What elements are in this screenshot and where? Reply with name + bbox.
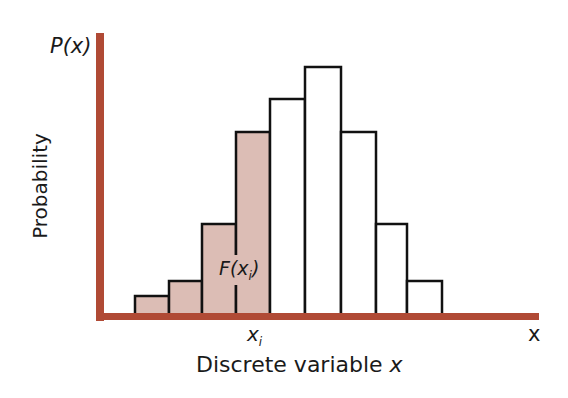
histogram-bar-shaded (169, 281, 202, 316)
F-close: ) (252, 257, 259, 279)
x-axis-end-label: x (528, 322, 540, 346)
histogram-bar (407, 281, 442, 316)
x-axis-variable: x (390, 352, 403, 377)
F-var: x (237, 257, 248, 279)
cumulative-label: F(xi) (219, 257, 259, 283)
histogram-bar (270, 99, 305, 316)
y-axis-label: Probability (28, 133, 52, 239)
F-open: F( (219, 257, 237, 279)
x-axis-label: Discrete variable x (196, 352, 403, 377)
y-axis-line (96, 33, 104, 321)
histogram-bar-shaded (236, 132, 270, 316)
histogram-bar (376, 224, 407, 316)
x-i-subscript: i (259, 335, 262, 349)
x-axis-label-text: Discrete variable (196, 352, 390, 377)
x-axis-line (96, 313, 539, 320)
histogram-bar (305, 67, 341, 316)
histogram-chart (0, 0, 568, 398)
histogram-bar (341, 132, 376, 316)
x-i-tick-label: xi (247, 322, 262, 349)
x-i-base: x (247, 322, 259, 346)
y-axis-title: P(x) (50, 34, 91, 58)
